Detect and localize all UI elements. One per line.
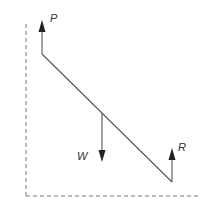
beam-line <box>42 54 172 182</box>
force-w-label: W <box>77 151 87 162</box>
force-w-arrow <box>99 113 106 162</box>
force-r-arrow <box>169 148 176 182</box>
force-p-arrow <box>39 20 46 54</box>
force-r-label: R <box>178 142 186 153</box>
force-diagram <box>0 0 200 204</box>
force-p-label: P <box>50 13 57 24</box>
